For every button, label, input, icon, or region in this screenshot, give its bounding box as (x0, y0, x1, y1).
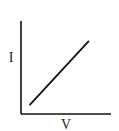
x-axis-label: V (61, 117, 71, 131)
iv-graph: I V (0, 0, 119, 131)
y-axis-label: I (9, 50, 14, 65)
iv-line (30, 41, 89, 104)
